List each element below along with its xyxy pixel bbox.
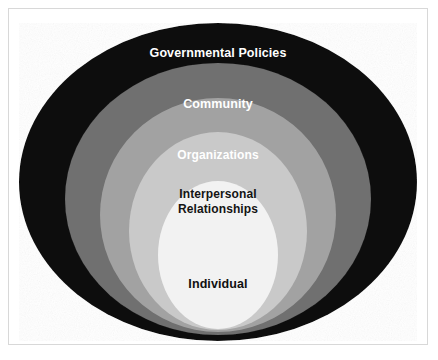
social-ecological-model-figure: Governmental Policies Community Organiza… bbox=[0, 0, 438, 360]
ellipse-layer-individual bbox=[158, 181, 278, 329]
nested-ellipse-stage: Governmental Policies Community Organiza… bbox=[9, 9, 427, 344]
nested-ellipses-graphic bbox=[9, 9, 427, 344]
